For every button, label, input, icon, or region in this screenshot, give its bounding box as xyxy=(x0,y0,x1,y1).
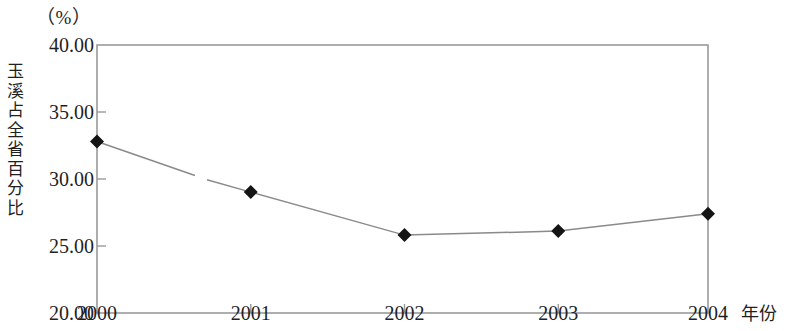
x-tick-label: 2004 xyxy=(663,302,753,324)
x-tick-label: 2001 xyxy=(206,302,296,324)
x-tick-label: 2000 xyxy=(52,302,142,324)
chart-figure: （%） 玉溪占全省百分比 40.00 35.00 30.00 25.00 20.… xyxy=(0,0,793,331)
x-tick-label: 2002 xyxy=(360,302,450,324)
x-axis-tick-labels: 2000 2001 2002 2003 2004 xyxy=(0,0,793,331)
x-tick-label: 2003 xyxy=(513,302,603,324)
x-axis-title: 年份 xyxy=(741,303,777,325)
